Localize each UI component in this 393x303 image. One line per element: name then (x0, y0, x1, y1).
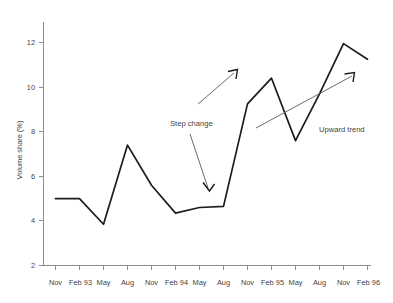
y-axis-ticks (39, 43, 44, 266)
line-chart: 12 10 8 6 4 2 Volume share (%) Nov Feb 9… (0, 0, 393, 303)
y-tick-label-2: 2 (31, 261, 35, 270)
x-axis-ticks (56, 266, 368, 271)
x-tick-label-12: Nov (337, 278, 350, 287)
x-tick-label-6: May (193, 278, 207, 287)
y-tick-label-8: 8 (31, 127, 35, 136)
x-tick-label-13: Feb 96 (357, 278, 380, 287)
x-tick-label-1: Feb 93 (69, 278, 92, 287)
x-tick-label-2: May (97, 278, 111, 287)
x-tick-label-0: Nov (49, 278, 62, 287)
x-tick-label-5: Feb 94 (165, 278, 188, 287)
y-tick-label-10: 10 (27, 83, 35, 92)
upward-trend-arrow (256, 73, 355, 129)
chart-container: 12 10 8 6 4 2 Volume share (%) Nov Feb 9… (0, 0, 393, 303)
x-tick-label-7: Aug (217, 278, 230, 287)
x-tick-label-9: Feb 95 (261, 278, 284, 287)
upward-trend-label: Upward trend (319, 125, 365, 134)
step-change-pointer-arrow (190, 134, 215, 191)
x-tick-label-4: Nov (145, 278, 158, 287)
x-tick-label-11: Aug (313, 278, 326, 287)
y-tick-label-4: 4 (31, 216, 35, 225)
step-change-label: Step change (170, 119, 213, 128)
x-tick-label-10: May (289, 278, 303, 287)
y-tick-label-12: 12 (27, 38, 35, 47)
step-change-up-arrow (198, 70, 238, 105)
y-axis-title: Volume share (%) (15, 121, 24, 180)
y-tick-label-6: 6 (31, 172, 35, 181)
x-tick-label-8: Nov (241, 278, 254, 287)
x-tick-label-3: Aug (121, 278, 134, 287)
